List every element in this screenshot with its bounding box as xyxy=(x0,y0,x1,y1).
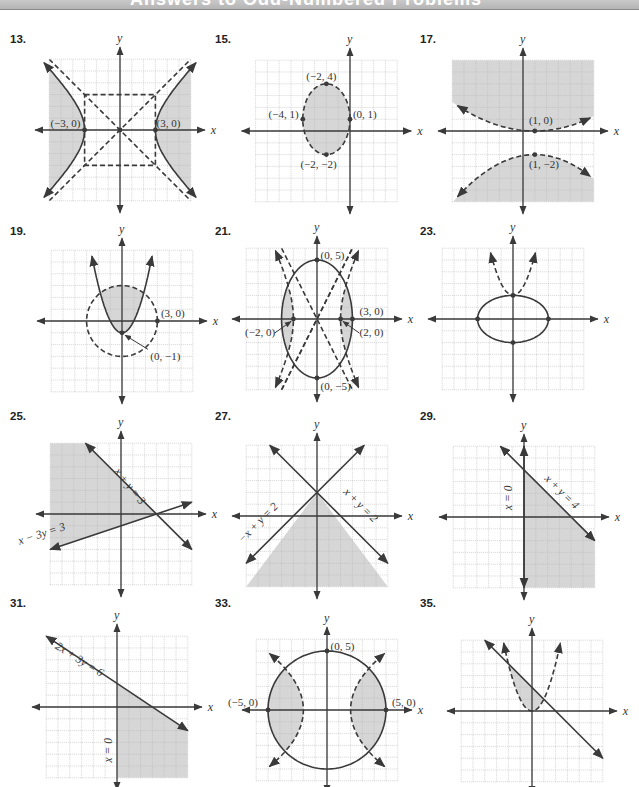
point-label: (5, 0) xyxy=(392,696,416,709)
axes xyxy=(428,236,598,402)
point-label: (1, −2) xyxy=(529,158,559,171)
x-axis-label: x xyxy=(207,700,214,714)
point-marker xyxy=(155,319,160,324)
point-label: (−2, 4) xyxy=(306,70,336,83)
point-marker xyxy=(348,117,353,122)
x-axis-label: x xyxy=(407,509,414,523)
point-marker xyxy=(325,649,330,654)
line-equation-label: x = 0 xyxy=(502,485,514,511)
y-axis-label: y xyxy=(346,32,353,46)
point-marker xyxy=(532,152,537,157)
point-marker xyxy=(546,317,551,322)
point-marker xyxy=(82,128,87,133)
point-label: (3, 0) xyxy=(161,307,185,320)
axes xyxy=(37,238,207,404)
point-label: (0, −5) xyxy=(321,380,351,393)
point-marker xyxy=(315,258,320,263)
point-marker xyxy=(300,117,305,122)
point-label: (1, 0) xyxy=(529,114,553,127)
page-header: Answers to Odd-Numbered Problems xyxy=(0,0,639,10)
coordinate-plane: xy−x + y = 2x + y = 2 xyxy=(215,410,425,600)
point-marker xyxy=(511,340,516,345)
point-label: (0, 1) xyxy=(353,108,377,121)
coordinate-plane: xyx + y = 3x − 3y = 3 xyxy=(10,410,220,600)
point-marker xyxy=(475,317,480,322)
point-marker xyxy=(291,317,296,322)
point-marker xyxy=(532,129,537,134)
point-marker xyxy=(324,152,329,157)
y-axis-label: y xyxy=(323,611,330,625)
point-marker xyxy=(511,293,516,298)
y-axis-label: y xyxy=(528,612,535,626)
coordinate-plane: xy(−2, 4)(−4, 1)(0, 1)(−2, −2) xyxy=(215,33,425,223)
x-axis-label: x xyxy=(407,312,414,326)
point-label: (0, −1) xyxy=(150,350,180,363)
y-axis-label: y xyxy=(118,222,125,236)
point-marker xyxy=(315,376,320,381)
point-label: (−2, 0) xyxy=(245,326,275,339)
coordinate-plane: xy xyxy=(420,225,630,415)
x-axis-label: x xyxy=(622,704,629,718)
y-axis-label: y xyxy=(519,32,526,46)
y-axis-label: y xyxy=(509,220,516,234)
point-marker xyxy=(338,317,343,322)
y-axis-label: y xyxy=(313,220,320,234)
point-marker xyxy=(118,128,123,133)
line-equation-label: x + y = 2 xyxy=(340,485,380,525)
point-label: (3, 0) xyxy=(157,117,181,130)
point-marker xyxy=(350,317,355,322)
point-label: (0, 5) xyxy=(321,249,345,262)
x-axis-label: x xyxy=(614,510,621,524)
point-label: (3, 0) xyxy=(359,305,383,318)
point-marker xyxy=(266,708,271,713)
coordinate-plane: xy2x + 3y = 6x = 0 xyxy=(10,597,220,787)
point-marker xyxy=(120,330,125,335)
point-label: (−3, 0) xyxy=(50,117,80,130)
y-axis-label: y xyxy=(117,415,124,429)
coordinate-plane: xyx = 0x + y = 4 xyxy=(420,410,630,600)
coordinate-plane: xy(−3, 0)(3, 0) xyxy=(10,33,220,223)
coordinate-plane: xy xyxy=(420,597,630,787)
header-title: Answers to Odd-Numbered Problems xyxy=(130,0,482,10)
coordinate-plane: xy(0, 5)(−5, 0)(5, 0) xyxy=(215,597,425,787)
x-axis-label: x xyxy=(603,312,610,326)
line-equation-label: x = 0 xyxy=(102,738,114,764)
coordinate-plane: xy(1, 0)(1, −2) xyxy=(420,33,630,223)
point-label: (0, 5) xyxy=(331,640,355,653)
point-marker xyxy=(384,708,389,713)
point-label: (−2, −2) xyxy=(300,158,337,171)
point-label: (2, 0) xyxy=(359,326,383,339)
x-axis-label: x xyxy=(613,124,620,138)
coordinate-plane: xy(0, 5)(3, 0)(−2, 0)(2, 0)(0, −5) xyxy=(215,225,425,415)
y-axis-label: y xyxy=(313,417,320,431)
y-axis-label: y xyxy=(116,31,123,45)
point-label: (−4, 1) xyxy=(269,108,299,121)
y-axis-label: y xyxy=(113,608,120,622)
y-axis-label: y xyxy=(520,418,527,432)
point-label: (−5, 0) xyxy=(228,696,258,709)
coordinate-plane: xy(3, 0)(0, −1) xyxy=(10,225,220,415)
